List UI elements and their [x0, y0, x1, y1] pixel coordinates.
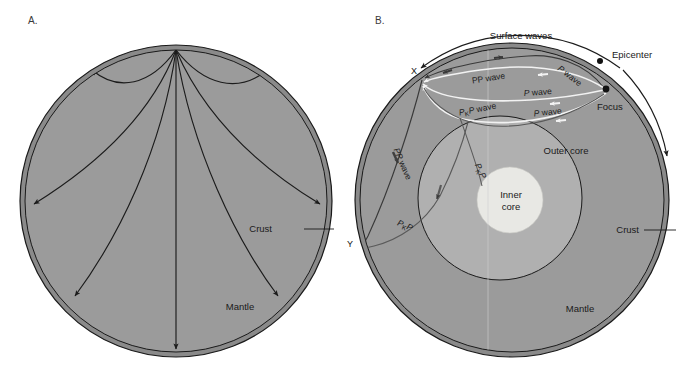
outer-core-label: Outer core: [544, 145, 589, 156]
figure-root: A.: [0, 0, 693, 370]
inner-core-label-line1: Inner: [500, 189, 522, 200]
panel-b-crust-label: Crust: [616, 224, 639, 235]
ray-p-tick-3: [556, 120, 566, 121]
focus-marker: [603, 86, 610, 93]
ray-pp-tick-1: [494, 57, 503, 58]
panel-b-mantle-label: Mantle: [566, 303, 595, 314]
epicenter-marker: [597, 58, 603, 64]
ray-p-tick-2: [550, 103, 560, 104]
station-x-label: X: [411, 66, 417, 76]
ray-p-tick-1: [538, 74, 548, 75]
seismic-wave-figure: A.: [0, 0, 693, 370]
focus-label: Focus: [597, 101, 623, 112]
station-y-label: Y: [347, 239, 353, 249]
panel-a-letter: A.: [28, 15, 37, 26]
panel-a-crust-label: Crust: [249, 223, 272, 234]
panel-b-letter: B.: [375, 15, 384, 26]
surface-waves-label: Surface waves: [490, 30, 553, 41]
inner-core-label-line2: core: [502, 201, 520, 212]
label-p-wave-middle: P wave: [524, 86, 553, 98]
panel-a-mantle-label: Mantle: [226, 301, 255, 312]
panel-b-inner-core: [477, 167, 543, 233]
epicenter-label: Epicenter: [612, 49, 652, 60]
